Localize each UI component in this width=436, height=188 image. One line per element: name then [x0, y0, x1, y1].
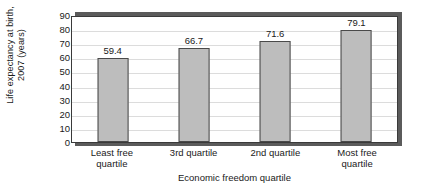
x-axis-tick-label: Least freequartile: [71, 147, 153, 169]
x-axis-title: Economic freedom quartile: [71, 172, 398, 183]
y-axis-tick-label: 90: [59, 11, 70, 21]
x-axis-tick-label-line: 2nd quartile: [235, 147, 317, 158]
bar-slot: 71.6: [235, 17, 316, 142]
x-axis-tick-label-line: Most free: [316, 147, 398, 158]
x-axis-tick-label: 2nd quartile: [235, 147, 317, 169]
bar[interactable]: [97, 58, 128, 142]
y-axis-tick-label: 30: [59, 96, 70, 106]
bar-slot: 79.1: [316, 17, 397, 142]
bar[interactable]: [260, 41, 291, 142]
bar-slot: 66.7: [153, 17, 234, 142]
y-axis-title-line-2: 2007 (years): [16, 29, 27, 81]
y-axis-tick-label: 80: [59, 25, 70, 35]
y-axis-tick-label: 70: [59, 39, 70, 49]
bar-value-label: 71.6: [266, 29, 285, 39]
bar-value-label: 66.7: [185, 36, 204, 46]
bar-chart: Life expectancy at birth, 2007 (years) 0…: [0, 0, 436, 188]
y-axis-tick-label: 50: [59, 67, 70, 77]
bars-layer: 59.466.771.679.1: [72, 17, 397, 142]
y-axis-tick-label: 20: [59, 110, 70, 120]
bar-value-label: 59.4: [103, 46, 122, 56]
x-axis-tick-label-line: 3rd quartile: [153, 147, 235, 158]
y-axis-title-line-1: Life expectancy at birth,: [5, 6, 16, 104]
bar-slot: 59.4: [72, 17, 153, 142]
x-axis-tick-label: Most freequartile: [316, 147, 398, 169]
plot-area: 59.466.771.679.1: [71, 16, 398, 143]
bar[interactable]: [341, 30, 372, 142]
x-axis-tick-labels: Least freequartile3rd quartile2nd quarti…: [71, 147, 398, 169]
x-axis-tick-label-line: Least free: [71, 147, 153, 158]
y-axis-tick-labels: 0102030405060708090: [44, 11, 70, 147]
x-axis-tick-label-line: quartile: [316, 158, 398, 169]
x-axis-tick-label-line: quartile: [71, 158, 153, 169]
y-axis-title: Life expectancy at birth, 2007 (years): [0, 0, 32, 120]
bar[interactable]: [178, 48, 209, 142]
y-axis-tick-label: 10: [59, 124, 70, 134]
y-axis-tick-label: 40: [59, 82, 70, 92]
y-axis-tick-label: 60: [59, 53, 70, 63]
bar-value-label: 79.1: [347, 18, 366, 28]
y-axis-tick-label: 0: [65, 138, 70, 148]
x-axis-tick-label: 3rd quartile: [153, 147, 235, 169]
